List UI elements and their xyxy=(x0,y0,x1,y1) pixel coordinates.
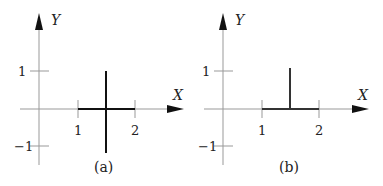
x-axis-label-b: X xyxy=(357,87,369,103)
panel-a: Y X 1 −1 1 2 (a) xyxy=(14,12,184,175)
y-tick-label-neg1-b: −1 xyxy=(198,139,217,154)
x-axis-arrow-icon-b xyxy=(352,105,369,113)
y-axis-label-a: Y xyxy=(51,12,62,28)
y-axis-arrow-icon-a xyxy=(35,13,43,30)
x-axis-arrow-icon-a xyxy=(167,105,184,113)
caption-a: (a) xyxy=(94,159,113,175)
x-axis-label-a: X xyxy=(172,87,184,103)
y-tick-label-neg1-a: −1 xyxy=(14,139,33,154)
figure: Y X 1 −1 1 2 (a) Y X 1 −1 1 2 (b) xyxy=(0,0,383,186)
panel-b: Y X 1 −1 1 2 (b) xyxy=(198,12,369,175)
y-tick-label-1-b: 1 xyxy=(202,64,210,79)
y-axis-label-b: Y xyxy=(235,12,246,28)
x-tick-label-1-a: 1 xyxy=(74,123,82,138)
y-tick-label-1-a: 1 xyxy=(18,64,26,79)
x-tick-label-2-a: 2 xyxy=(131,123,139,138)
x-tick-label-1-b: 1 xyxy=(258,123,266,138)
caption-b: (b) xyxy=(279,159,299,175)
x-tick-label-2-b: 2 xyxy=(315,123,323,138)
y-axis-arrow-icon-b xyxy=(219,13,227,30)
